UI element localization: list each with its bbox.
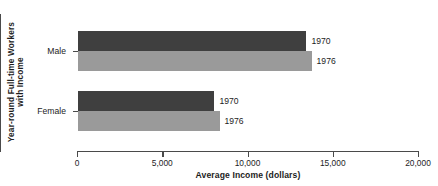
x-tick-10000 [248,152,249,157]
y-axis-title-line-2: with Income [16,57,25,107]
x-tick-label-5000: 5,000 [152,158,173,168]
bar-female-1976 [78,111,220,131]
x-tick-label-10000: 10,000 [235,158,261,168]
y-axis-title: Year-round Full-time Workers with Income [0,7,32,157]
y-axis-line [0,14,1,152]
x-tick-5000 [162,152,163,157]
bar-male-1970 [78,31,306,51]
x-tick-15000 [333,152,334,157]
x-axis-title: Average Income (dollars) [77,170,419,180]
x-tick-0 [77,152,78,157]
x-tick-20000 [418,152,419,157]
bar-label-male-1970: 1970 [311,36,330,46]
bar-label-female-1970: 1970 [219,96,238,106]
category-label-male: Male [47,46,66,56]
bar-label-male-1976: 1976 [317,56,336,66]
x-tick-label-15000: 15,000 [320,158,346,168]
category-label-female: Female [37,106,66,116]
bar-chart: Year-round Full-time Workers with Income… [0,0,438,186]
bar-female-1970 [78,91,214,111]
x-tick-label-20000: 20,000 [405,158,431,168]
bar-label-female-1976: 1976 [225,116,244,126]
bar-male-1976 [78,51,312,71]
x-tick-label-0: 0 [75,158,80,168]
